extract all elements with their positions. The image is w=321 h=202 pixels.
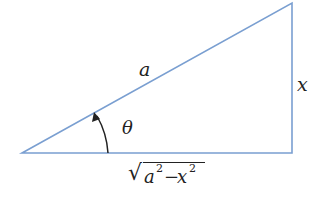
sqrt-sign: √ [128,160,142,185]
exponent-x: 2 [189,162,196,175]
radicand-a: a [144,166,155,187]
triangle [22,3,292,153]
opposite-label: x [297,73,308,95]
hypotenuse-label: a [139,58,150,80]
radicand-x: x [177,166,187,187]
angle-label: θ [122,117,133,138]
exponent-a: 2 [156,162,163,175]
angle-arc [97,116,108,153]
